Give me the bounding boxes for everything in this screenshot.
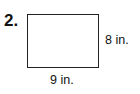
- width-label: 9 in.: [50, 73, 74, 87]
- rectangle-shape: [27, 14, 99, 68]
- height-label: 8 in.: [105, 33, 129, 47]
- problem-number: 2.: [4, 12, 18, 29]
